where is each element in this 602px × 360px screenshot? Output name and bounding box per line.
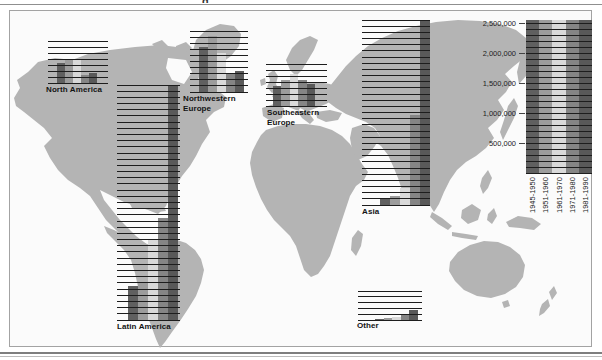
islands-new-zealand xyxy=(539,286,557,316)
legend-tick: 1,500,000 xyxy=(483,79,525,87)
gridline xyxy=(526,107,592,108)
gridline xyxy=(117,165,180,166)
legend-column-1981-1990 xyxy=(579,20,592,173)
gridline xyxy=(526,47,592,48)
gridline xyxy=(48,65,108,66)
legend-decade-label: 1945-1950 xyxy=(528,177,537,213)
gridline xyxy=(117,122,180,123)
gridline xyxy=(117,276,180,277)
gridline xyxy=(117,221,180,222)
gridline xyxy=(266,70,327,71)
gridline xyxy=(117,258,180,259)
gridline xyxy=(48,59,108,60)
gridline xyxy=(48,47,108,48)
continent-australia xyxy=(449,241,525,308)
bottom-rule xyxy=(0,352,602,354)
gridline xyxy=(117,146,180,147)
gridline xyxy=(358,314,422,315)
legend-decade-label: 1961-1970 xyxy=(555,177,564,213)
gridline xyxy=(362,38,430,39)
gridline xyxy=(362,63,430,64)
gridline xyxy=(362,118,430,119)
gridline xyxy=(190,92,248,93)
legend-tick-dash xyxy=(519,113,525,114)
chart-northwestern-europe xyxy=(190,31,248,92)
gridline xyxy=(526,149,592,150)
gridline xyxy=(358,308,422,309)
bar-1961-1970 xyxy=(290,74,298,106)
gridline xyxy=(526,155,592,156)
gridline xyxy=(362,149,430,150)
gridline xyxy=(117,313,180,314)
gridline xyxy=(117,233,180,234)
gridline xyxy=(48,77,108,78)
gridline xyxy=(362,180,430,181)
gridline xyxy=(362,186,430,187)
gridline xyxy=(358,291,422,292)
chart-label-other: Other xyxy=(357,321,379,331)
chart-label-asia: Asia xyxy=(362,207,379,217)
bar-1961-1970 xyxy=(400,188,410,205)
gridline xyxy=(526,35,592,36)
gridline xyxy=(117,115,180,116)
gridline xyxy=(266,100,327,101)
gridline xyxy=(526,125,592,126)
legend-axis: 2,500,0002,000,0001,500,0001,000,000500,… xyxy=(455,20,525,176)
gridline xyxy=(362,112,430,113)
legend-tick-dash xyxy=(519,83,525,84)
gridline xyxy=(358,302,422,303)
gridline xyxy=(117,239,180,240)
gridline xyxy=(362,161,430,162)
gridline xyxy=(362,124,430,125)
gridline xyxy=(117,159,180,160)
legend-column-1945-1950 xyxy=(526,20,539,173)
gridline xyxy=(117,97,180,98)
legend-tick-dash xyxy=(519,23,525,24)
gridline xyxy=(117,264,180,265)
gridline xyxy=(362,20,430,21)
gridline xyxy=(362,81,430,82)
gridline xyxy=(526,143,592,144)
bar-1951-1960 xyxy=(208,36,217,92)
gridline xyxy=(526,23,592,24)
gridline xyxy=(362,26,430,27)
bar-1981-1990 xyxy=(235,71,244,92)
gridline xyxy=(190,31,248,32)
gridline xyxy=(190,79,248,80)
legend-tick-dash xyxy=(519,53,525,54)
gridline xyxy=(526,101,592,102)
gridline xyxy=(117,289,180,290)
gridline xyxy=(266,88,327,89)
legend-tick: 500,000 xyxy=(489,139,525,147)
chart-label-north-america: North America xyxy=(46,85,102,95)
gridline xyxy=(362,57,430,58)
legend-tick-label: 1,000,000 xyxy=(483,109,516,118)
gridline xyxy=(526,59,592,60)
gridline xyxy=(362,155,430,156)
gridline xyxy=(190,85,248,86)
gridline xyxy=(362,100,430,101)
gridline xyxy=(117,177,180,178)
gridline xyxy=(190,73,248,74)
gridline xyxy=(117,270,180,271)
legend-decade-label: 1951-1960 xyxy=(541,177,550,213)
gridline xyxy=(117,227,180,228)
gridline xyxy=(117,307,180,308)
bar-1981-1990 xyxy=(409,310,418,320)
gridline xyxy=(362,205,430,206)
gridline xyxy=(526,65,592,66)
gridline xyxy=(362,137,430,138)
gridline xyxy=(190,67,248,68)
gridline xyxy=(266,82,327,83)
gridline xyxy=(117,85,180,86)
gridline xyxy=(117,295,180,296)
legend-tick-label: 500,000 xyxy=(489,139,516,148)
gridline xyxy=(362,131,430,132)
gridline xyxy=(526,53,592,54)
chart-label-northwestern-europe: NorthwesternEurope xyxy=(183,94,236,113)
bottom-rule-shadow xyxy=(0,356,602,357)
gridline xyxy=(117,190,180,191)
gridline xyxy=(117,208,180,209)
gridline xyxy=(526,77,592,78)
gridline xyxy=(362,198,430,199)
